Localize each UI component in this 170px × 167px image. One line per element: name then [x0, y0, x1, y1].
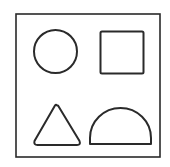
- semicircle-shape: [90, 108, 151, 144]
- square-shape: [101, 32, 144, 74]
- circle-shape: [34, 30, 77, 73]
- triangle-shape: [34, 105, 80, 145]
- shapes-diagram: [0, 0, 170, 167]
